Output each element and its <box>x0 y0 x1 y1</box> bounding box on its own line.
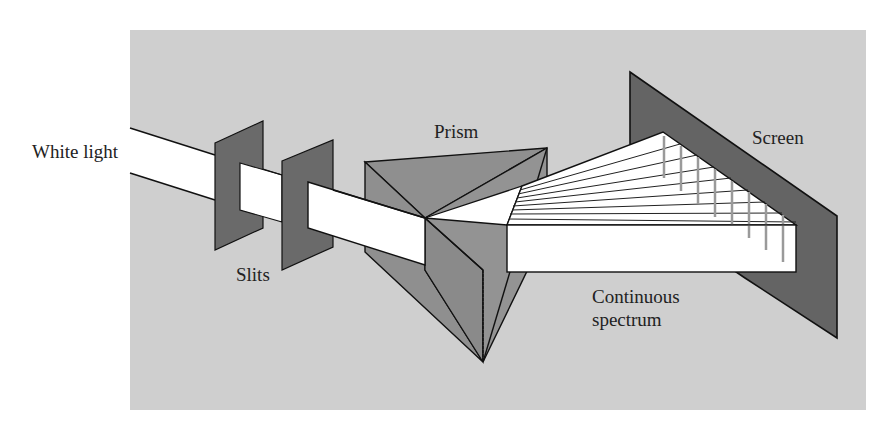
prism-label: Prism <box>434 120 478 144</box>
white-light-label: White light <box>32 140 118 164</box>
diagram-stage: White light Slits Prism Screen Continuou… <box>0 0 881 434</box>
continuous-spectrum-band <box>507 225 796 272</box>
prism-diagram <box>0 0 881 434</box>
spectrum-label-line2: spectrum <box>592 308 662 332</box>
screen-label: Screen <box>752 126 804 150</box>
slits-label: Slits <box>236 263 270 287</box>
spectrum-label-line1: Continuous <box>592 285 680 309</box>
